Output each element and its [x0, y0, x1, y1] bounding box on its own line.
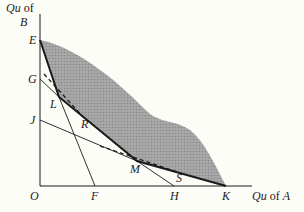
point-E-label: E — [28, 33, 37, 47]
point-O-label: O — [30, 189, 39, 203]
production-possibility-diagram: Qu of B E G J L R M S O F H K Qu of A — [0, 0, 304, 212]
y-axis-label-b: B — [20, 15, 28, 29]
point-M-label: M — [129, 162, 141, 176]
point-F-label: F — [90, 189, 99, 203]
y-axis-label: Qu of — [6, 1, 34, 15]
point-R-label: R — [80, 117, 89, 131]
point-L-label: L — [49, 97, 57, 111]
x-axis-label: Qu of A — [252, 189, 291, 203]
point-G-label: G — [28, 72, 37, 86]
point-H-label: H — [169, 189, 180, 203]
point-K-label: K — [221, 189, 231, 203]
point-S-label: S — [176, 171, 182, 185]
point-J-label: J — [30, 113, 36, 127]
